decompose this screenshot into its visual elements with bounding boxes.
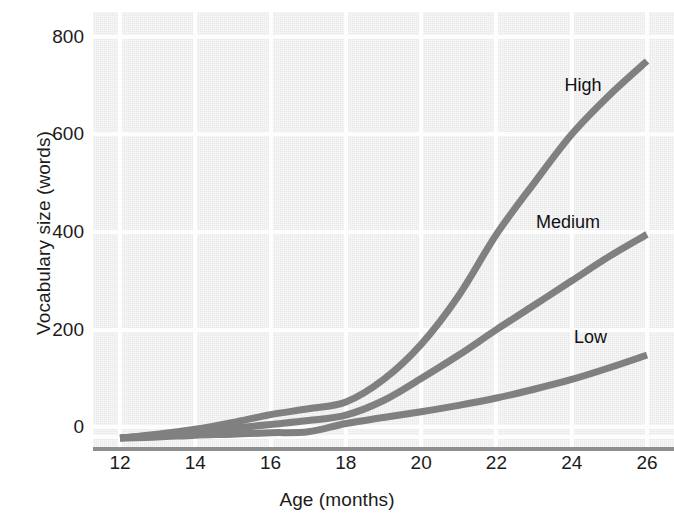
x-axis-title: Age (months) — [0, 489, 674, 511]
y-tick-label: 600 — [18, 123, 84, 145]
series-label-low: Low — [574, 326, 607, 347]
series-label-high: High — [564, 75, 601, 96]
y-tick-label: 800 — [18, 26, 84, 48]
x-tick-label: 16 — [241, 452, 301, 474]
x-tick-label: 20 — [391, 452, 451, 474]
vocabulary-growth-chart: Vocabulary size (words) 0200400600800 12… — [0, 0, 674, 523]
x-tick-label: 24 — [542, 452, 602, 474]
y-tick-label: 400 — [18, 221, 84, 243]
series-line — [120, 234, 647, 438]
y-tick-label: 200 — [18, 319, 84, 341]
x-tick-label: 14 — [165, 452, 225, 474]
x-axis-line — [93, 447, 674, 451]
x-tick-label: 26 — [617, 452, 674, 474]
y-tick-label: 0 — [18, 416, 84, 438]
x-tick-label: 18 — [316, 452, 376, 474]
series-label-medium: Medium — [536, 212, 600, 233]
x-tick-label: 22 — [466, 452, 526, 474]
x-tick-label: 12 — [90, 452, 150, 474]
